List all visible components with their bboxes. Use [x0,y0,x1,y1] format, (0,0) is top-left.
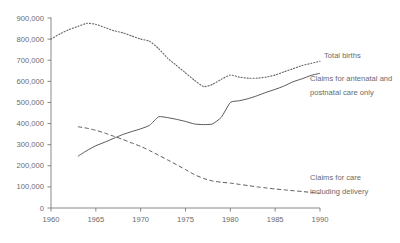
y-axis: 0100,000200,000300,000400,000500,000600,… [17,14,51,213]
y-tick-label: 0 [40,204,44,213]
antenatal-postnatal-label-line2: postnatal care only [310,88,374,97]
care-including-delivery-label-line1: Claims for care [310,173,361,182]
antenatal-postnatal-label-line1: Claims for antenatal and [310,74,392,83]
chart-canvas: 0100,000200,000300,000400,000500,000600,… [0,0,400,243]
x-tick-label: 1985 [267,215,284,224]
y-tick-label: 900,000 [17,14,44,23]
x-axis: 1960196519701975198019851990 [43,208,329,224]
line-chart: 0100,000200,000300,000400,000500,000600,… [0,0,400,243]
y-tick-label: 800,000 [17,35,44,44]
series-line-2 [78,73,320,156]
y-tick-label: 400,000 [17,119,44,128]
y-tick-label: 100,000 [17,182,44,191]
series-line-1 [51,23,320,86]
x-tick-label: 1965 [87,215,104,224]
series-labels: Total birthsClaims for antenatal andpost… [310,51,392,196]
y-tick-label: 600,000 [17,77,44,86]
care-including-delivery-label-line2: including delivery [310,187,368,196]
series-layer [51,23,320,193]
x-tick-label: 1960 [43,215,60,224]
y-tick-label: 500,000 [17,98,44,107]
y-tick-label: 200,000 [17,161,44,170]
x-tick-label: 1975 [177,215,194,224]
x-tick-label: 1980 [222,215,239,224]
x-tick-label: 1970 [132,215,149,224]
total-births-label: Total births [324,51,361,60]
x-tick-label: 1990 [312,215,329,224]
series-line-3 [78,127,320,194]
y-tick-label: 700,000 [17,56,44,65]
y-tick-label: 300,000 [17,140,44,149]
